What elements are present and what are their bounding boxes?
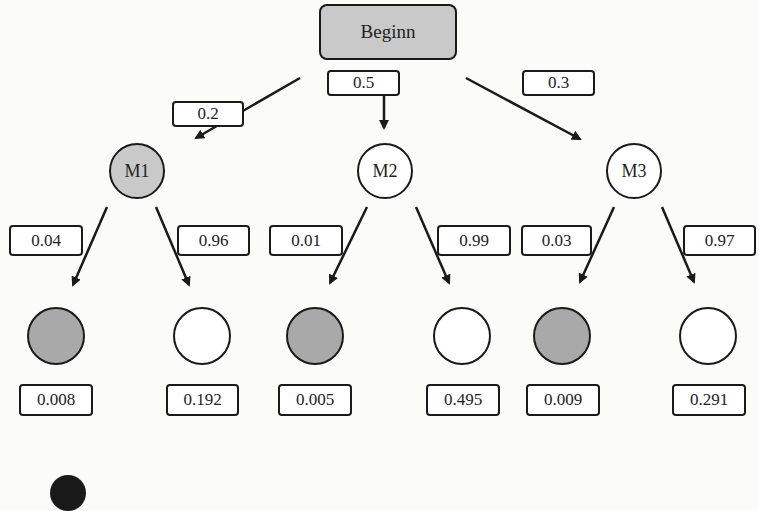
partial-circle-shape [50,475,86,511]
edge-prob-m1-a: 0.04 [9,225,83,256]
result-m2-a: 0.005 [278,384,352,416]
result-m3-a: 0.009 [526,384,600,416]
node-m2: M2 [357,143,413,199]
edge-prob-m3: 0.3 [522,70,595,96]
node-m1-label: M1 [124,161,149,182]
leaf-node-m3-b [679,307,737,365]
leaf-node-m3-a [533,307,591,365]
edge-prob-m3-b: 0.97 [683,225,756,256]
leaf-node-m1-b [173,307,231,365]
root-label: Beginn [361,21,416,43]
result-m1-a: 0.008 [19,384,93,416]
edge-prob-m3-a: 0.03 [521,225,592,256]
node-m2-label: M2 [372,161,397,182]
edge-prob-m2-a: 0.01 [269,225,343,256]
edge-prob-m1-b: 0.96 [177,225,250,256]
result-m1-b: 0.192 [166,384,239,416]
edge-prob-m2: 0.5 [327,70,400,96]
node-m3-label: M3 [621,161,646,182]
result-m3-b: 0.291 [672,384,746,416]
edge-prob-m1: 0.2 [172,101,244,127]
leaf-node-m2-a [286,307,344,365]
leaf-node-m1-a [27,307,85,365]
root-node-beginn: Beginn [319,4,457,60]
node-m3: M3 [606,143,662,199]
result-m2-b: 0.495 [426,384,500,416]
edge-prob-m2-b: 0.99 [437,225,511,256]
leaf-node-m2-b [433,307,491,365]
node-m1: M1 [109,143,165,199]
